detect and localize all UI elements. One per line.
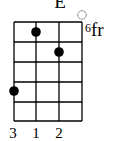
base-fret-suffix: fr: [91, 19, 104, 40]
strings: [14, 22, 82, 121]
finger-label-string-1: 3: [6, 126, 20, 141]
finger-dot: [9, 86, 19, 96]
frets: [14, 22, 82, 121]
finger-dot: [31, 27, 41, 37]
base-fret-number: 6: [85, 21, 91, 35]
base-fret-label: 6fr: [85, 20, 104, 40]
open-string-icon: [78, 11, 87, 20]
finger-label-string-3: 2: [52, 126, 66, 141]
finger-dot: [54, 47, 64, 57]
finger-label-string-2: 1: [29, 126, 43, 141]
